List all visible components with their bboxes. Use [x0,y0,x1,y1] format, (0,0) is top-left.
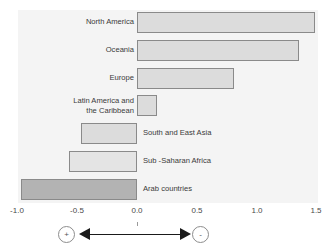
arrow-line [89,234,182,236]
x-tick-label: -0.5 [70,206,84,215]
x-tick-label: 1.5 [310,206,321,215]
bar-rect[interactable] [137,68,234,89]
category-label: South and East Asia [143,128,263,138]
category-label: North America [42,17,134,27]
category-label: Oceania [42,45,134,55]
bar-rect[interactable] [137,95,157,116]
category-label: Europe [42,73,134,83]
arrow-head-right-icon [180,228,191,240]
bar-rect[interactable] [21,179,137,200]
positive-marker-icon: + [58,226,75,243]
bar-rect[interactable] [69,151,137,172]
category-label: Sub -Saharan Africa [143,156,263,166]
x-tick-label: 0.0 [131,206,142,215]
direction-legend: + - [0,218,334,251]
x-tick-label: -1.0 [10,206,24,215]
category-label: Arab countries [143,184,263,194]
bar-rect[interactable] [137,12,315,33]
bar-chart: North AmericaOceaniaEuropeLatin America … [0,0,334,251]
x-tick-label: 1.0 [251,206,262,215]
category-label: Latin America and the Caribbean [28,96,134,115]
bar-rect[interactable] [81,123,137,144]
bar-rect[interactable] [137,40,299,61]
x-tick-label: 0.5 [191,206,202,215]
zero-tick-mark [137,222,138,226]
negative-marker-icon: - [192,226,209,243]
